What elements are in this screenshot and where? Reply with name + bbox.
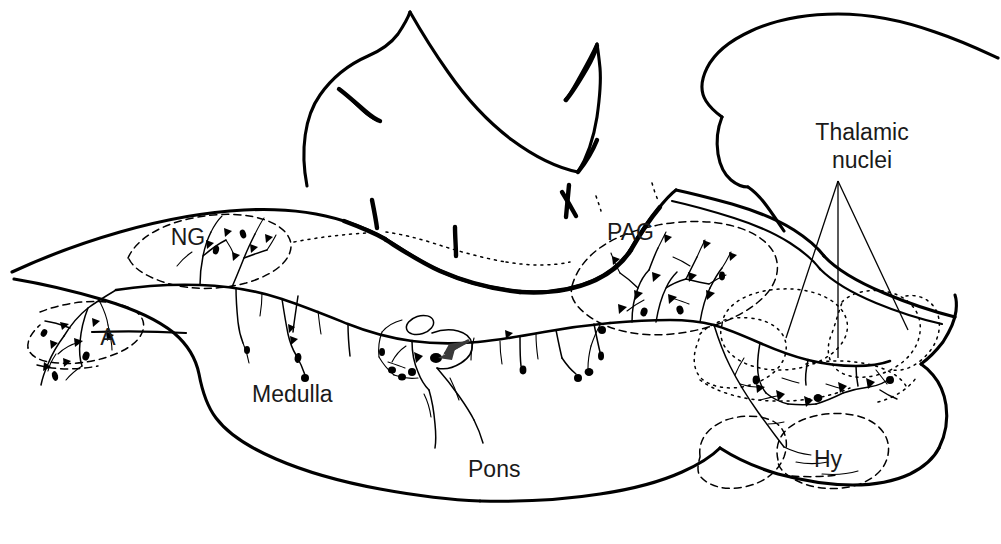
brain-section-drawing: NG A Medulla Pons PAG Hy Thalamic nuclei — [0, 0, 1001, 544]
brainstem-dorsal-contour — [12, 190, 676, 292]
thalamic-nuclei-label-line2: nuclei — [832, 147, 892, 173]
region-label-pons: Pons — [468, 456, 520, 482]
region-label-medulla: Medulla — [252, 381, 333, 407]
region-label-pag: PAG — [607, 219, 654, 245]
region-label-hy: Hy — [814, 446, 843, 472]
region-label-a: A — [100, 324, 116, 350]
axon-branch-cluster-pons — [379, 312, 483, 448]
region-label-ng: NG — [171, 224, 206, 250]
axon-arbor-pag — [585, 232, 737, 376]
axon-arbor-thalamus — [735, 343, 897, 407]
brain-section-figure: NG A Medulla Pons PAG Hy Thalamic nuclei — [0, 0, 1001, 544]
brainstem-surface-fissures — [372, 185, 576, 256]
thalamic-nuclei-boundaries — [694, 289, 939, 402]
thalamic-nuclei-label-line1: Thalamic — [815, 119, 908, 145]
cerebellum-outline — [304, 12, 600, 186]
